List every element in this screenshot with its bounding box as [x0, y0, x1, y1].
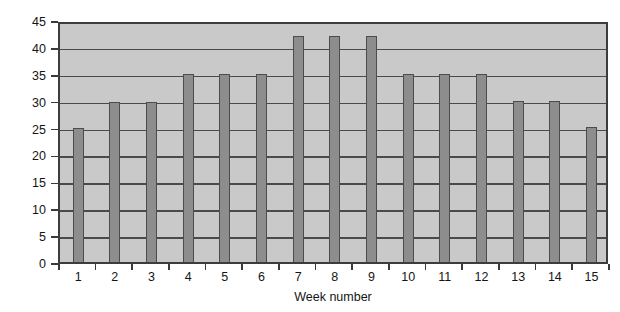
plot-area [58, 22, 608, 264]
y-tick-label: 35 [24, 70, 46, 82]
y-tick-mark [51, 263, 58, 265]
x-tick-label: 15 [580, 270, 604, 284]
bar [146, 102, 157, 262]
bar [329, 36, 340, 262]
bar [513, 101, 524, 262]
y-axis-tick-labels: 051015202530354045 [22, 0, 46, 312]
y-tick-label: 15 [24, 177, 46, 189]
y-tick-mark [51, 183, 58, 185]
y-tick-label: 10 [24, 204, 46, 216]
x-tick-label: 2 [103, 270, 127, 284]
x-tick-label: 12 [470, 270, 494, 284]
x-tick-label: 10 [396, 270, 420, 284]
bar [549, 101, 560, 262]
bar [219, 74, 230, 262]
x-tick-label: 4 [176, 270, 200, 284]
y-tick-mark [51, 48, 58, 50]
x-tick-label: 13 [506, 270, 530, 284]
bar [366, 36, 377, 262]
y-tick-mark [51, 156, 58, 158]
y-tick-label: 45 [24, 16, 46, 28]
bar [586, 127, 597, 262]
y-tick-mark [51, 129, 58, 131]
y-tick-label: 25 [24, 124, 46, 136]
x-tick-label: 7 [286, 270, 310, 284]
bar [73, 128, 84, 262]
x-tick-label: 3 [140, 270, 164, 284]
y-tick-label: 30 [24, 97, 46, 109]
y-tick-label: 5 [24, 231, 46, 243]
bar [183, 74, 194, 262]
x-tick-label: 11 [433, 270, 457, 284]
bar [476, 74, 487, 262]
y-tick-mark [51, 102, 58, 104]
bar [256, 74, 267, 262]
bar [403, 74, 414, 262]
x-tick-label: 6 [250, 270, 274, 284]
bar [109, 102, 120, 262]
bar [293, 36, 304, 262]
bar [439, 74, 450, 262]
x-axis-tick-labels: 123456789101112131415 [58, 270, 610, 286]
x-axis-title: Week number [58, 290, 608, 304]
y-tick-label: 0 [24, 258, 46, 270]
x-tick-label: 9 [360, 270, 384, 284]
x-tick-label: 8 [323, 270, 347, 284]
y-tick-label: 40 [24, 43, 46, 55]
x-tick-label: 5 [213, 270, 237, 284]
x-tick-label: 14 [543, 270, 567, 284]
y-tick-mark [51, 209, 58, 211]
bar-chart: Weekly volume (km) 051015202530354045 12… [0, 0, 620, 312]
y-tick-mark [51, 21, 58, 23]
y-tick-mark [51, 236, 58, 238]
x-tick-label: 1 [66, 270, 90, 284]
y-tick-mark [51, 75, 58, 77]
y-tick-label: 20 [24, 150, 46, 162]
